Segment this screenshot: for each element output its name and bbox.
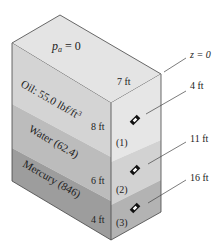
z0-leader-line [164,58,186,72]
top-dimension-label: 7 ft [117,76,131,87]
depth-label-11ft: 11 ft [190,133,208,144]
fluid-tank-diagram: pa = 0 Oil: 55.0 lbf/ft3 Water (62.4) Me… [0,0,223,251]
atmospheric-pressure-label: pa = 0 [51,39,81,54]
water-thickness-label: 6 ft [91,175,105,186]
oil-thickness-label: 8 ft [91,121,105,132]
point-3-label: (3) [116,217,128,229]
depth-label-4ft: 4 ft [190,80,204,91]
point-1-label: (1) [116,137,128,149]
depth-label-z0: z = 0 [189,49,211,60]
mercury-thickness-label: 4 ft [91,214,105,225]
depth-label-16ft: 16 ft [190,172,209,183]
point-2-label: (2) [116,184,128,196]
